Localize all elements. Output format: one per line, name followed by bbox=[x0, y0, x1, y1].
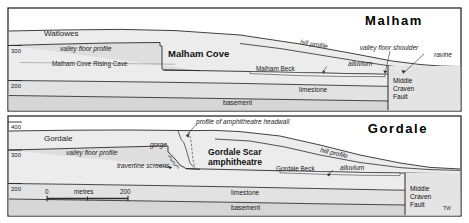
gordale-axis-label-400: 400 bbox=[11, 124, 22, 130]
malham-valley-floor-shoulder-label: valley floor shoulder bbox=[360, 44, 419, 52]
gordale-valley-label: Gordale bbox=[44, 134, 73, 143]
malham-basement-label: basement bbox=[223, 99, 252, 106]
malham-limestone-label: limestone bbox=[299, 86, 328, 93]
gordale-beck-label: Gordale Beck bbox=[276, 165, 316, 172]
gordale-scar-label-line1: Gordale Scar bbox=[208, 147, 262, 157]
artist-signature: TW bbox=[443, 205, 451, 211]
malham-panel-title: Malham bbox=[365, 13, 423, 28]
malham-alluvium-label: alluvium bbox=[348, 60, 373, 67]
scale-bar-start-label: 0 bbox=[45, 188, 49, 195]
geological-cross-section-figure: 300 200 Malham Watlowes valley floor pro… bbox=[0, 0, 469, 223]
malham-beck-label: Malham Beck bbox=[256, 65, 296, 72]
panel-gordale: 400 300 200 0 metres 200 bbox=[8, 116, 461, 216]
gordale-axis-label-200: 200 bbox=[11, 186, 22, 192]
gordale-panel-title: Gordale bbox=[368, 121, 428, 136]
gordale-limestone-label: limestone bbox=[231, 189, 260, 196]
cross-section-canvas: 300 200 Malham Watlowes valley floor pro… bbox=[0, 0, 469, 223]
gordale-scar-label-line2: amphitheatre bbox=[208, 157, 262, 167]
malham-axis-label-300: 300 bbox=[11, 48, 22, 54]
gordale-gorge-label: gorge bbox=[150, 141, 167, 149]
panel-malham: 300 200 Malham Watlowes valley floor pro… bbox=[8, 8, 461, 111]
scale-bar-unit-label: metres bbox=[74, 188, 94, 195]
malham-watlowes-label: Watlowes bbox=[44, 29, 78, 38]
gordale-axis-label-300: 300 bbox=[11, 152, 22, 158]
gordale-alluvium-label: alluvium bbox=[340, 164, 365, 171]
scale-bar-end-label: 200 bbox=[120, 188, 131, 195]
gordale-travertine-label: travertine screens bbox=[117, 162, 170, 169]
gordale-valley-floor-profile-label: valley floor profile bbox=[66, 149, 118, 157]
malham-ravine-label: ravine bbox=[434, 51, 452, 58]
gordale-headwall-label: profile of amphitheatre headwall bbox=[195, 118, 290, 126]
malham-cove-label: Malham Cove bbox=[168, 48, 229, 59]
malham-rising-cave-label: Malham Cove Rising Cave bbox=[52, 60, 128, 68]
gordale-basement-label: basement bbox=[231, 204, 260, 211]
malham-axis-label-200: 200 bbox=[11, 83, 22, 89]
malham-valley-floor-profile-label: valley floor profile bbox=[60, 45, 112, 53]
